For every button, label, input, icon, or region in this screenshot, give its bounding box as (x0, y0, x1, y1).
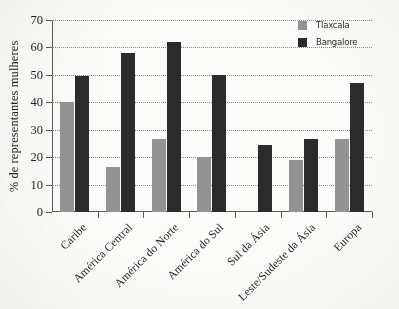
bar-bangalore (350, 83, 364, 212)
chart-title-remnant (0, 0, 399, 9)
y-tick-label-50: 50 (31, 69, 44, 82)
x-tick (326, 212, 327, 218)
y-tick-label-30: 30 (31, 123, 44, 136)
bar-bangalore (304, 139, 318, 212)
bar-group (189, 20, 235, 212)
bar-bangalore (75, 76, 89, 212)
x-tick-label: Caribe (58, 221, 89, 252)
bar-group (52, 20, 98, 212)
x-tick (98, 212, 99, 218)
y-tick-0 (46, 212, 52, 213)
y-tick-label-40: 40 (31, 96, 44, 109)
bar-chart: % de representantes mulheres 01020304050… (0, 0, 399, 309)
plot-area: 010203040506070 CaribeAmérica CentralAmé… (52, 20, 372, 212)
bar-bangalore (212, 75, 226, 212)
bar-group (326, 20, 372, 212)
x-tick-label: Europa (331, 221, 363, 253)
bar-tlaxcala (152, 139, 166, 212)
x-tick (281, 212, 282, 218)
bar-tlaxcala (289, 160, 303, 212)
bar-tlaxcala (335, 139, 349, 212)
x-tick-label: Leste/Sudeste da Ásia (236, 221, 318, 303)
bar-bangalore (258, 145, 272, 212)
x-tick-label: Sul da Ásia (225, 221, 272, 268)
bar-tlaxcala (197, 157, 211, 212)
bar-group (143, 20, 189, 212)
legend-item: Tlaxcala (298, 20, 357, 30)
bar-group (235, 20, 281, 212)
y-tick-label-20: 20 (31, 151, 44, 164)
y-tick-label-70: 70 (31, 14, 44, 27)
bar-tlaxcala (106, 167, 120, 212)
chart-legend: TlaxcalaBangalore (298, 20, 357, 47)
legend-item: Bangalore (298, 37, 357, 47)
bar-tlaxcala (60, 102, 74, 212)
legend-swatch-tlaxcala (298, 21, 307, 30)
bar-bangalore (167, 42, 181, 212)
y-axis-title: % de representantes mulheres (6, 20, 24, 212)
y-axis-title-text: % de representantes mulheres (8, 40, 23, 192)
legend-swatch-bangalore (298, 38, 307, 47)
x-tick (189, 212, 190, 218)
bar-bangalore (121, 53, 135, 212)
y-tick-label-10: 10 (31, 178, 44, 191)
y-tick-label-0: 0 (37, 206, 43, 219)
x-tick (235, 212, 236, 218)
y-tick-label-60: 60 (31, 41, 44, 54)
bar-group (98, 20, 144, 212)
bar-group (281, 20, 327, 212)
x-tick (143, 212, 144, 218)
x-tick (372, 212, 373, 218)
legend-label-tlaxcala: Tlaxcala (316, 20, 350, 30)
legend-label-bangalore: Bangalore (316, 37, 357, 47)
